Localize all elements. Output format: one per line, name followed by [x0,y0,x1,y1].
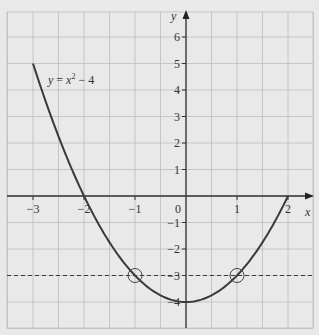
x-tick-label: −1 [129,202,142,216]
y-tick-label: 5 [174,57,180,71]
x-axis-label: x [304,205,311,219]
y-tick-label: 6 [174,30,180,44]
x-tick-label: 2 [285,202,291,216]
grid [7,12,314,329]
y-tick-label: 4 [174,83,180,97]
y-tick-label: 2 [174,136,180,150]
y-tick-label: −2 [167,242,180,256]
equation-label: y = x2 − 4 [47,72,94,87]
grid-border [7,12,313,328]
chart: −3−2−1012654321−1−2−3−4 x y y = x2 − 4 [0,0,319,335]
y-axis-arrow-icon [183,10,190,19]
x-tick-label: 0 [175,202,181,216]
y-axis-label: y [170,9,177,23]
y-tick-label: 3 [174,110,180,124]
y-tick-label: 1 [174,163,180,177]
series [7,64,313,303]
x-tick-label: −3 [27,202,40,216]
y-tick-label: −1 [167,216,180,230]
x-tick-label: 1 [234,202,240,216]
